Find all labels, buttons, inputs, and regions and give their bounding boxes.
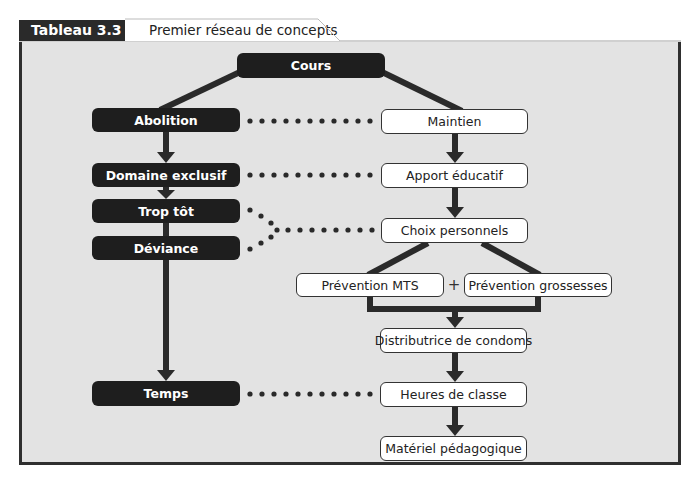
plus-sign: + xyxy=(446,276,462,294)
node-label: Choix personnels xyxy=(401,223,509,238)
node-deviance: Déviance xyxy=(92,236,240,260)
node-temps: Temps xyxy=(92,381,240,406)
node-distributrice-condoms: Distributrice de condoms xyxy=(380,328,527,353)
node-label: Maintien xyxy=(428,114,482,129)
node-label: Cours xyxy=(291,58,331,73)
node-label: Matériel pédagogique xyxy=(385,441,522,456)
node-heures-classe: Heures de classe xyxy=(380,382,527,407)
node-label: Heures de classe xyxy=(400,387,506,402)
node-choix-personnels: Choix personnels xyxy=(381,218,528,243)
node-label: Domaine exclusif xyxy=(106,168,227,183)
node-apport-educatif: Apport éducatif xyxy=(381,163,528,188)
node-label: Distributrice de condoms xyxy=(375,333,532,348)
node-trop-tot: Trop tôt xyxy=(92,199,240,223)
node-label: Prévention MTS xyxy=(321,278,418,293)
node-prevention-mts: Prévention MTS xyxy=(296,273,444,297)
node-domaine-exclusif: Domaine exclusif xyxy=(92,163,240,187)
node-label: Trop tôt xyxy=(138,204,194,219)
node-prevention-grossesses: Prévention grossesses xyxy=(464,273,612,297)
node-materiel-pedagogique: Matériel pédagogique xyxy=(380,436,527,461)
node-abolition: Abolition xyxy=(92,108,240,132)
node-label: Temps xyxy=(144,386,189,401)
node-maintien: Maintien xyxy=(381,109,528,134)
node-cours: Cours xyxy=(237,53,385,78)
node-label: Déviance xyxy=(134,241,199,256)
node-label: Apport éducatif xyxy=(406,168,503,183)
node-label: Prévention grossesses xyxy=(468,278,607,293)
node-label: Abolition xyxy=(134,113,198,128)
